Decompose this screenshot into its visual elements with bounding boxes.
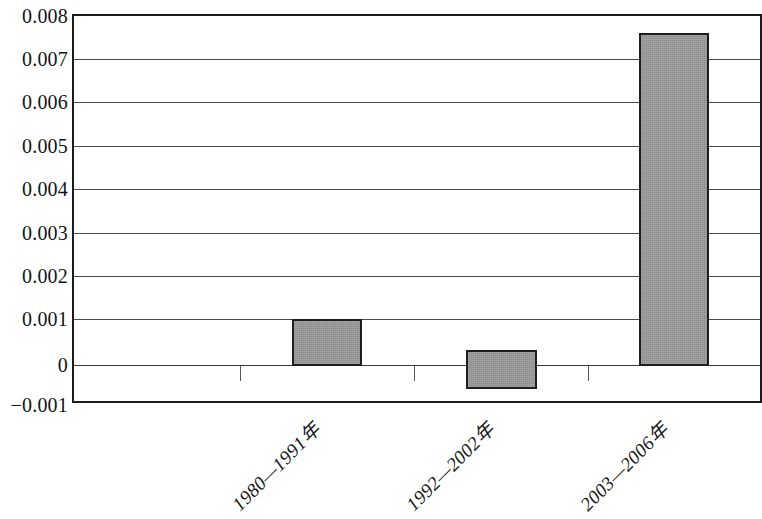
x-label-1980-1991: 1980—1991年 (228, 419, 325, 516)
x-tick-2 (414, 366, 415, 381)
x-tick-3 (588, 366, 589, 381)
y-tick-label-0.001: 0.001 (0, 309, 68, 329)
bar-1980-1991[interactable] (292, 319, 362, 366)
y-tick-label-0.007: 0.007 (0, 49, 68, 69)
bar-2003-2006[interactable] (639, 33, 709, 366)
y-tick-label-0.008: 0.008 (0, 6, 68, 26)
y-tick-label-0.003: 0.003 (0, 223, 68, 243)
x-label-2003-2006: 2003—2006年 (576, 419, 673, 516)
plot-area: 0.008 0.007 0.006 0.005 0.004 0.003 0.00… (72, 14, 762, 403)
y-tick-label-0.006: 0.006 (0, 92, 68, 112)
y-tick-label-0.005: 0.005 (0, 136, 68, 156)
y-axis-labels: 0.008 0.007 0.006 0.005 0.004 0.003 0.00… (0, 16, 68, 401)
bars-layer (74, 16, 760, 401)
x-tick-1 (240, 366, 241, 381)
y-tick-label-0.004: 0.004 (0, 179, 68, 199)
bar-1992-2002[interactable] (466, 350, 537, 389)
x-label-1992-2002: 1992—2002年 (402, 419, 499, 516)
x-axis-category-labels: 1980—1991年 1992—2002年 2003—2006年 (0, 412, 751, 519)
y-tick-label-0: 0 (0, 355, 68, 375)
y-tick-label-0.002: 0.002 (0, 266, 68, 286)
